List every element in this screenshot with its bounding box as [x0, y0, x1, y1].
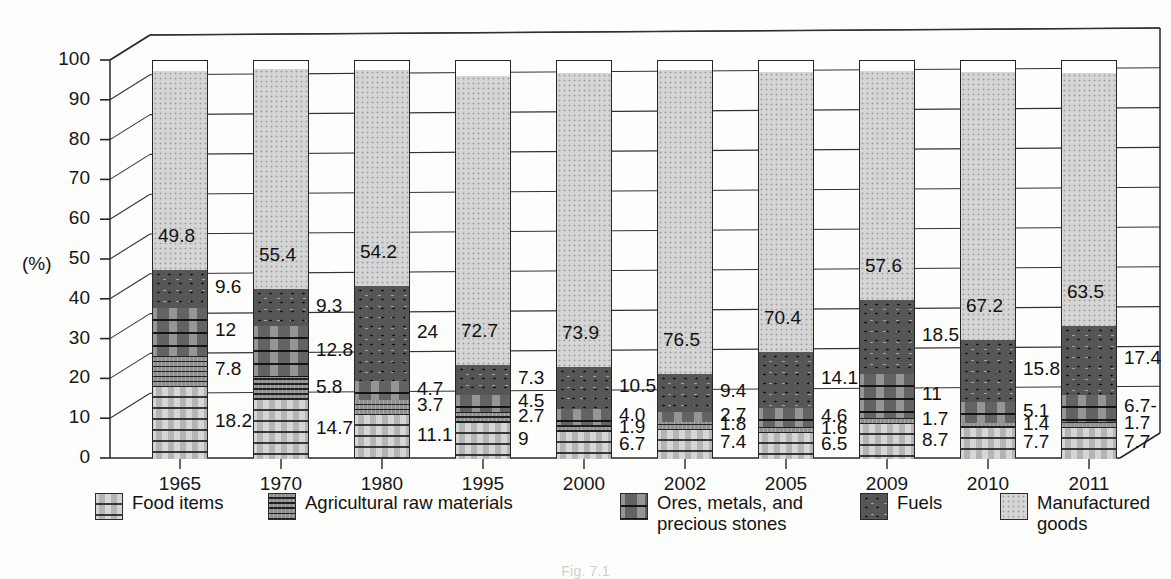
value-label-1980-ores: 4.7 [417, 378, 443, 400]
value-label-2011-ores: 6.7- [1124, 395, 1157, 417]
segment-1970-fuels [254, 289, 308, 326]
value-label-1980-manufactured-goods: 54.2 [360, 241, 397, 263]
value-label-2010-fuels: 15.8 [1023, 358, 1060, 380]
legend-label-agri: Agricultural raw materials [305, 492, 513, 513]
y-axis-tick-70: 70 [30, 167, 90, 189]
segment-2011-food-items [1062, 428, 1116, 459]
segment-1980-ores [355, 381, 409, 400]
fuels-swatch-icon [860, 493, 888, 520]
bar-2000 [556, 60, 612, 458]
value-label-1995-manufactured-goods: 72.7 [461, 320, 498, 342]
value-label-2011-manufactured-goods: 63.5 [1067, 281, 1104, 303]
legend-item-fuel[interactable]: Fuels [860, 492, 970, 520]
segment-2010-fuels [961, 340, 1015, 403]
segment-2009-ores [860, 374, 914, 418]
segment-2010-ores [961, 402, 1015, 422]
value-label-2010-ores: 5.1 [1023, 400, 1049, 422]
bar-1995 [455, 60, 511, 458]
value-label-2009-fuels: 18.5 [922, 324, 959, 346]
value-label-2000-ores: 4.0 [619, 404, 645, 426]
segment-1980-food-items [355, 415, 409, 459]
segment-2000-ores [557, 409, 611, 425]
bar-2011 [1061, 60, 1117, 458]
value-label-1970-ores: 12.8 [316, 339, 353, 361]
segment-1995-food-items [456, 423, 510, 459]
segment-1965-fuels [153, 270, 207, 308]
segment-2002-fuels [658, 374, 712, 411]
value-label-1965-ores: 12 [215, 319, 236, 341]
value-label-1970-fuels: 9.3 [316, 295, 342, 317]
segment-1995-fuels [456, 365, 510, 394]
value-label-2010-manufactured-goods: 67.2 [966, 295, 1003, 317]
segment-2002-ores [658, 412, 712, 423]
y-axis-tick-0: 0 [30, 446, 90, 468]
value-label-1995-ores: 4.5 [518, 390, 544, 412]
value-label-2005-manufactured-goods: 70.4 [764, 307, 801, 329]
chart-legend: Food itemsAgricultural raw materialsOres… [0, 492, 1171, 554]
segment-1995-ores [456, 395, 510, 413]
segment-2000-agricultural-raw-materials [557, 425, 611, 433]
legend-label-manu: Manufactured goods [1037, 492, 1150, 534]
value-label-2002-ores: 2.7 [720, 404, 746, 426]
segment-2011-agricultural-raw-materials [1062, 422, 1116, 429]
segment-2005-fuels [759, 352, 813, 408]
legend-label-fuel: Fuels [897, 492, 942, 513]
legend-item-manu[interactable]: Manufactured goods [1000, 492, 1150, 534]
y-axis-tick-90: 90 [30, 88, 90, 110]
value-label-2005-fuels: 14.1 [821, 367, 858, 389]
value-label-1965-food-items: 18.2 [215, 410, 252, 432]
segment-2009-agricultural-raw-materials [860, 418, 914, 425]
segment-1995-agricultural-raw-materials [456, 412, 510, 423]
segment-2000-food-items [557, 432, 611, 459]
legend-item-food[interactable]: Food items [95, 492, 295, 520]
value-label-1965-agricultural-raw-materials: 7.8 [215, 358, 241, 380]
value-label-2005-ores: 4.6 [821, 405, 847, 427]
value-label-2000-fuels: 10.5 [619, 375, 656, 397]
value-label-2002-manufactured-goods: 76.5 [663, 329, 700, 351]
segment-1980-agricultural-raw-materials [355, 400, 409, 415]
segment-2009-fuels [860, 300, 914, 374]
figure-caption: Fig. 7.1 [0, 563, 1171, 579]
y-axis-tick-100: 100 [30, 48, 90, 70]
value-label-1970-agricultural-raw-materials: 5.8 [316, 376, 342, 398]
segment-1970-ores [254, 326, 308, 377]
y-axis-tick-40: 40 [30, 287, 90, 309]
segment-1965-agricultural-raw-materials [153, 356, 207, 387]
legend-item-ores[interactable]: Ores, metals, and precious stones [620, 492, 820, 534]
segment-2000-fuels [557, 367, 611, 409]
y-axis-tick-20: 20 [30, 366, 90, 388]
value-label-1965-manufactured-goods: 49.8 [158, 225, 195, 247]
value-label-2009-ores: 11 [922, 383, 942, 405]
value-label-1980-fuels: 24 [417, 321, 438, 343]
y-axis-tick-10: 10 [30, 406, 90, 428]
legend-item-agri[interactable]: Agricultural raw materials [268, 492, 598, 520]
segment-2002-food-items [658, 430, 712, 459]
segment-2011-fuels [1062, 326, 1116, 395]
segment-2009-food-items [860, 424, 914, 459]
segment-2011-ores [1062, 395, 1116, 422]
value-label-2011-fuels: 17.4 [1124, 347, 1161, 369]
value-label-1970-food-items: 14.7 [316, 417, 353, 439]
segment-2002-agricultural-raw-materials [658, 422, 712, 429]
ores-swatch-icon [620, 493, 648, 520]
value-label-2009-manufactured-goods: 57.6 [865, 255, 902, 277]
agri-swatch-icon [268, 493, 296, 520]
value-label-1970-manufactured-goods: 55.4 [259, 244, 296, 266]
value-label-2000-manufactured-goods: 73.9 [562, 322, 599, 344]
segment-2005-food-items [759, 433, 813, 459]
segment-2005-ores [759, 408, 813, 426]
value-label-2002-fuels: 9.4 [720, 380, 746, 402]
bar-2005 [758, 60, 814, 458]
value-label-1980-food-items: 11.1 [417, 424, 453, 446]
segment-2010-food-items [961, 428, 1015, 459]
y-axis-unit-label: (%) [22, 253, 52, 275]
segment-1970-agricultural-raw-materials [254, 377, 308, 400]
value-label-1995-food-items: 9 [518, 428, 529, 450]
segment-1980-fuels [355, 286, 409, 382]
segment-1965-food-items [153, 387, 207, 459]
y-axis-tick-80: 80 [30, 128, 90, 150]
segment-2010-agricultural-raw-materials [961, 423, 1015, 429]
value-label-1965-fuels: 9.6 [215, 276, 241, 298]
bar-1965 [152, 60, 208, 458]
